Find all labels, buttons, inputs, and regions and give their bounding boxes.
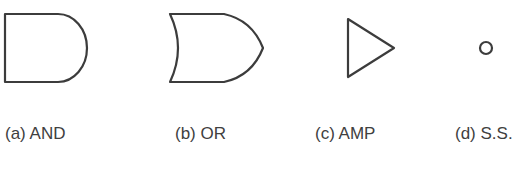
label-amp: (c) AMP — [315, 123, 375, 145]
small-circle-icon — [480, 42, 492, 54]
amplifier-triangle-icon — [348, 19, 394, 77]
label-or: (b) OR — [175, 123, 226, 145]
or-gate-icon — [170, 14, 263, 82]
logic-symbols-figure — [0, 0, 525, 174]
label-ss: (d) S.S. — [455, 123, 513, 145]
and-gate-icon — [5, 14, 87, 82]
label-and: (a) AND — [5, 123, 65, 145]
